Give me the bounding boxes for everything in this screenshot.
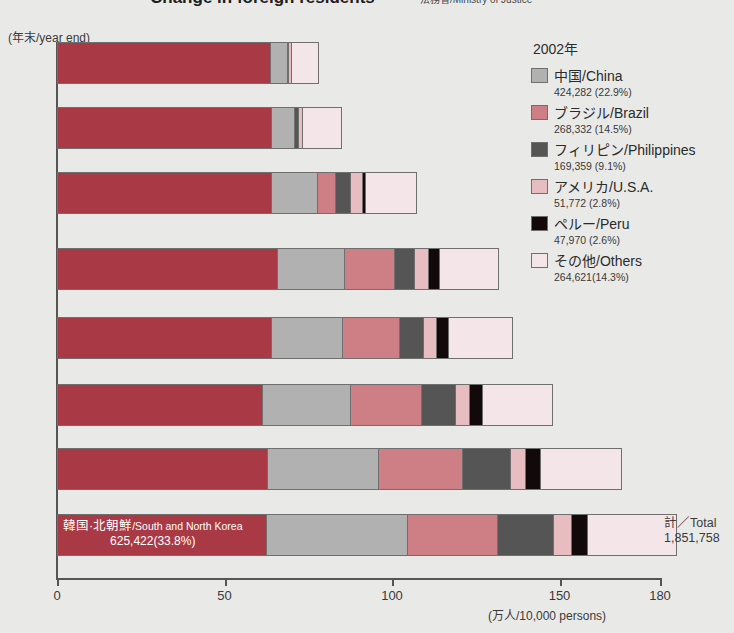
stacked-bar-95[interactable]	[57, 317, 513, 359]
bar-segment	[58, 43, 271, 83]
legend-swatch-china	[531, 68, 548, 83]
bar-segment	[272, 318, 343, 358]
legend-value-philippines: 169,359 (9.1%)	[554, 160, 731, 172]
bar-segment	[470, 385, 483, 425]
x-tick-50	[225, 578, 227, 586]
bar-segment	[449, 318, 512, 358]
legend-swatch-peru	[531, 216, 548, 231]
bar-segment	[268, 449, 379, 489]
stacked-bar-90[interactable]	[57, 172, 417, 214]
stacked-bar-1980[interactable]	[57, 42, 319, 84]
bar-segment	[408, 515, 498, 555]
legend-label-brazil: ブラジル/Brazil	[554, 102, 649, 122]
bar-segment	[456, 385, 470, 425]
bar-segment	[292, 43, 318, 83]
bar-segment	[58, 449, 268, 489]
bar-segment	[58, 385, 263, 425]
bar-segment	[422, 385, 456, 425]
bar-segment	[343, 318, 400, 358]
legend-value-peru: 47,970 (2.6%)	[554, 234, 731, 246]
x-tick-label-180: 180	[649, 588, 671, 603]
legend-swatch-others	[531, 253, 548, 268]
bar-segment	[554, 515, 571, 555]
bar-segment	[379, 449, 463, 489]
bar-segment	[351, 173, 363, 213]
x-tick-label-50: 50	[217, 588, 231, 603]
bar-segment	[526, 449, 541, 489]
legend-label-usa: アメリカ/U.S.A.	[554, 176, 653, 196]
x-tick-label-100: 100	[381, 588, 403, 603]
bar-segment	[572, 515, 588, 555]
legend: 2002年 中国/China424,282 (22.9%)ブラジル/Brazil…	[531, 38, 731, 287]
legend-label-philippines: フィリピン/Philippines	[554, 139, 696, 159]
bar-segment	[318, 173, 335, 213]
legend-title: 2002年	[533, 38, 731, 58]
legend-item-china[interactable]: 中国/China424,282 (22.9%)	[531, 65, 731, 98]
page-title: Change in foreign residents	[150, 0, 375, 8]
x-axis-line	[56, 578, 660, 580]
legend-value-china: 424,282 (22.9%)	[554, 86, 731, 98]
bar-segment	[440, 249, 498, 289]
bar-segment	[415, 249, 429, 289]
total-label: 計／Total 1,851,758	[664, 516, 720, 546]
bar-segment	[437, 318, 449, 358]
bar-segment	[278, 249, 346, 289]
stacked-bar-98[interactable]	[57, 384, 553, 426]
chart-header: Change in foreign residents 法務省/Ministry…	[0, 0, 734, 8]
x-tick-label-150: 150	[549, 588, 571, 603]
x-tick-180	[660, 578, 662, 586]
legend-item-others[interactable]: その他/Others264,621(14.3%)	[531, 250, 731, 283]
x-axis-unit-label: (万人/10,000 persons)	[488, 606, 606, 623]
total-value: 1,851,758	[664, 531, 720, 545]
bar-segment	[272, 108, 295, 148]
legend-value-others: 264,621(14.3%)	[554, 271, 731, 283]
legend-item-philippines[interactable]: フィリピン/Philippines169,359 (9.1%)	[531, 139, 731, 172]
legend-value-brazil: 268,332 (14.5%)	[554, 123, 731, 135]
bar-segment	[272, 173, 319, 213]
bar-segment	[58, 515, 267, 555]
x-tick-150	[560, 578, 562, 586]
legend-swatch-brazil	[531, 105, 548, 120]
bar-segment	[483, 385, 553, 425]
stacked-bar-2002[interactable]	[57, 514, 677, 556]
legend-item-brazil[interactable]: ブラジル/Brazil268,332 (14.5%)	[531, 102, 731, 135]
bar-segment	[463, 449, 511, 489]
stacked-bar-93[interactable]	[57, 248, 499, 290]
x-tick-label-0: 0	[53, 588, 60, 603]
legend-items: 中国/China424,282 (22.9%)ブラジル/Brazil268,33…	[531, 65, 731, 283]
bar-segment	[400, 318, 424, 358]
bar-segment	[345, 249, 395, 289]
bar-segment	[541, 449, 621, 489]
stacked-bar-2000[interactable]	[57, 448, 622, 490]
bar-segment	[58, 249, 278, 289]
legend-label-china: 中国/China	[554, 65, 622, 85]
source-note: 法務省/Ministry of Justice	[420, 0, 532, 6]
bar-segment	[395, 249, 415, 289]
bar-segment	[336, 173, 351, 213]
stacked-bar-85[interactable]	[57, 107, 342, 149]
total-caption: 計／Total	[664, 516, 716, 530]
bar-segment	[267, 515, 409, 555]
bar-segment	[424, 318, 438, 358]
legend-item-usa[interactable]: アメリカ/U.S.A.51,772 (2.8%)	[531, 176, 731, 209]
bar-segment	[511, 449, 526, 489]
bar-segment	[58, 318, 272, 358]
legend-swatch-philippines	[531, 142, 548, 157]
legend-label-peru: ペルー/Peru	[554, 213, 629, 233]
bar-segment	[351, 385, 422, 425]
bar-segment	[429, 249, 441, 289]
bar-segment	[58, 108, 272, 148]
bar-segment	[366, 173, 416, 213]
legend-item-peru[interactable]: ペルー/Peru47,970 (2.6%)	[531, 213, 731, 246]
x-tick-100	[392, 578, 394, 586]
bar-segment	[263, 385, 350, 425]
bar-segment	[303, 108, 340, 148]
legend-value-usa: 51,772 (2.8%)	[554, 197, 731, 209]
legend-swatch-usa	[531, 179, 548, 194]
legend-label-others: その他/Others	[554, 250, 642, 270]
bar-segment	[271, 43, 287, 83]
bar-segment	[498, 515, 554, 555]
bar-segment	[58, 173, 272, 213]
x-tick-0	[57, 578, 59, 586]
